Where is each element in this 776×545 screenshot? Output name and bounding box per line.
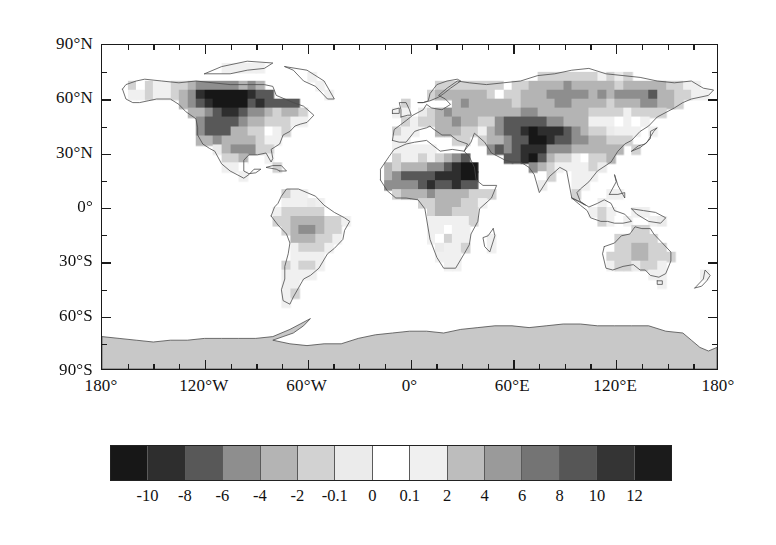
coastline xyxy=(271,189,350,304)
colorbar-cell xyxy=(261,446,298,480)
x-major-tick xyxy=(513,360,514,369)
colorbar-tick-label: 6 xyxy=(518,486,526,506)
y-minor-tick xyxy=(712,127,717,128)
colorbar-cell xyxy=(522,446,559,480)
x-minor-tick xyxy=(642,45,643,50)
colorbar-cell xyxy=(597,446,634,480)
coastline xyxy=(632,128,658,151)
x-minor-tick xyxy=(256,45,257,50)
colorbar-cell xyxy=(635,446,671,480)
x-major-tick xyxy=(616,360,617,369)
coastline xyxy=(603,227,671,277)
x-minor-tick xyxy=(693,45,694,50)
figure-root: 180°120°W60°W0°60°E120°E180° 90°N60°N30°… xyxy=(0,0,776,545)
x-major-tick xyxy=(205,45,206,54)
x-minor-tick xyxy=(128,45,129,50)
x-minor-tick xyxy=(565,364,566,369)
x-minor-tick xyxy=(565,45,566,50)
coastline xyxy=(392,68,713,205)
antarctica-landmass xyxy=(102,319,717,369)
y-minor-tick xyxy=(102,181,107,182)
x-minor-tick xyxy=(179,364,180,369)
colorbar-tick-label: 0.1 xyxy=(399,486,420,506)
y-major-tick xyxy=(102,317,111,318)
x-minor-tick xyxy=(333,45,334,50)
x-minor-tick xyxy=(256,364,257,369)
coastline xyxy=(285,67,335,99)
colorbar-tick-label: -0.1 xyxy=(322,486,348,506)
y-major-tick xyxy=(708,154,717,155)
coastline xyxy=(609,175,624,198)
coastline xyxy=(205,61,273,74)
colorbar-cell xyxy=(298,446,335,480)
colorbar-tick-label: 8 xyxy=(555,486,563,506)
x-minor-tick xyxy=(436,45,437,50)
colorbar-cell xyxy=(186,446,223,480)
x-minor-tick xyxy=(642,364,643,369)
map-canvas xyxy=(102,45,717,369)
x-minor-tick xyxy=(539,364,540,369)
coastline xyxy=(572,198,632,223)
coastline xyxy=(399,103,411,117)
y-minor-tick xyxy=(102,72,107,73)
colorbar-cell xyxy=(111,446,148,480)
y-major-tick xyxy=(102,262,111,263)
x-major-tick xyxy=(205,360,206,369)
x-minor-tick xyxy=(668,45,669,50)
x-minor-tick xyxy=(668,364,669,369)
x-minor-tick xyxy=(153,364,154,369)
x-axis-label: 60°W xyxy=(286,376,327,396)
x-minor-tick xyxy=(385,45,386,50)
x-minor-tick xyxy=(231,364,232,369)
colorbar-cell xyxy=(448,446,485,480)
x-minor-tick xyxy=(282,364,283,369)
y-axis-label: 60°N xyxy=(56,88,93,108)
colorbar-tick-label: -8 xyxy=(178,486,192,506)
colorbar-tick-label: -6 xyxy=(216,486,230,506)
y-major-tick xyxy=(102,208,111,209)
x-minor-tick xyxy=(231,45,232,50)
y-axis-label: 90°N xyxy=(56,34,93,54)
y-major-tick xyxy=(708,262,717,263)
x-major-tick xyxy=(308,45,309,54)
colorbar-tick-label: -4 xyxy=(253,486,267,506)
y-axis-label: 0° xyxy=(77,197,93,217)
coastline xyxy=(266,166,287,171)
colorbar-cell xyxy=(335,446,372,480)
coastline xyxy=(392,108,399,113)
x-minor-tick xyxy=(128,364,129,369)
y-axis-label: 30°S xyxy=(59,251,93,271)
colorbar-cell xyxy=(223,446,260,480)
y-minor-tick xyxy=(102,290,107,291)
x-minor-tick xyxy=(333,364,334,369)
x-minor-tick xyxy=(359,364,360,369)
y-major-tick xyxy=(102,99,111,100)
colorbar-tick-label: 12 xyxy=(626,486,643,506)
y-minor-tick xyxy=(712,235,717,236)
coastline xyxy=(657,281,662,285)
colorbar-tick-label: -2 xyxy=(290,486,304,506)
x-minor-tick xyxy=(179,45,180,50)
coastline xyxy=(123,79,314,178)
colorbar-cell xyxy=(373,446,410,480)
y-axis-label: 90°S xyxy=(59,360,93,380)
colorbar-tick-label: 0 xyxy=(368,486,376,506)
x-minor-tick xyxy=(462,364,463,369)
x-minor-tick xyxy=(539,45,540,50)
x-minor-tick xyxy=(436,364,437,369)
x-major-tick xyxy=(411,45,412,54)
colorbar-cell xyxy=(560,446,597,480)
colorbar-tick-label: 10 xyxy=(589,486,606,506)
x-minor-tick xyxy=(488,364,489,369)
coastline xyxy=(695,270,710,288)
x-major-tick xyxy=(411,360,412,369)
x-minor-tick xyxy=(359,45,360,50)
y-minor-tick xyxy=(712,344,717,345)
x-minor-tick xyxy=(590,364,591,369)
y-major-tick xyxy=(102,154,111,155)
coastline-overlay xyxy=(102,45,717,369)
y-minor-tick xyxy=(712,290,717,291)
y-minor-tick xyxy=(102,344,107,345)
x-axis-label: 0° xyxy=(402,376,418,396)
colorbar xyxy=(110,445,672,481)
